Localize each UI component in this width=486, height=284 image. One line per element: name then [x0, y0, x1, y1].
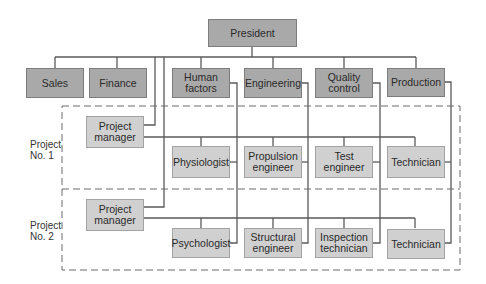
staff-label: Physiologist — [173, 157, 229, 168]
project2-label-line1: Project — [30, 220, 61, 231]
dept-finance-label: Finance — [99, 78, 136, 89]
dept-sales-label: Sales — [42, 78, 68, 89]
staff-label: Inspection technician — [319, 232, 369, 254]
project2-manager: Project manager — [86, 199, 144, 231]
dept-production-label: Production — [391, 77, 441, 88]
project2-staff-psychologist: Psychologist — [172, 228, 230, 258]
staff-label: Test engineer — [324, 151, 365, 173]
project1-manager-label: Project manager — [94, 121, 135, 143]
dept-human-factors: Human factors — [172, 68, 230, 98]
org-chart: President Sales Finance Human factors En… — [0, 0, 486, 284]
dept-production: Production — [387, 68, 445, 97]
staff-label: Psychologist — [172, 238, 231, 249]
staff-label: Propulsion engineer — [248, 151, 298, 173]
project1-label-line2: No. 1 — [30, 150, 61, 161]
staff-label: Structural engineer — [249, 232, 297, 254]
project2-label-line2: No. 2 — [30, 231, 61, 242]
project2-label: Project No. 2 — [30, 220, 61, 242]
dept-finance: Finance — [89, 68, 147, 98]
project1-label: Project No. 1 — [30, 139, 61, 161]
dept-quality-control-label: Quality control — [326, 72, 362, 94]
staff-label: Technician — [391, 157, 441, 168]
president-box: President — [208, 19, 297, 47]
dept-engineering: Engineering — [244, 68, 302, 98]
president-label: President — [230, 28, 274, 39]
project1-staff-propulsion-engineer: Propulsion engineer — [244, 146, 302, 178]
dept-engineering-label: Engineering — [245, 78, 301, 89]
dept-quality-control: Quality control — [315, 68, 373, 98]
project1-staff-test-engineer: Test engineer — [315, 146, 373, 178]
project2-manager-label: Project manager — [94, 204, 135, 226]
dept-human-factors-label: Human factors — [181, 72, 221, 94]
project1-manager: Project manager — [86, 116, 144, 148]
project1-staff-technician: Technician — [387, 146, 445, 178]
project2-staff-structural-engineer: Structural engineer — [244, 228, 302, 258]
project1-staff-physiologist: Physiologist — [172, 146, 230, 178]
staff-label: Technician — [391, 239, 441, 250]
dept-sales: Sales — [26, 68, 84, 98]
project1-label-line1: Project — [30, 139, 61, 150]
project2-staff-inspection-technician: Inspection technician — [315, 228, 373, 258]
project2-staff-technician: Technician — [387, 229, 445, 259]
